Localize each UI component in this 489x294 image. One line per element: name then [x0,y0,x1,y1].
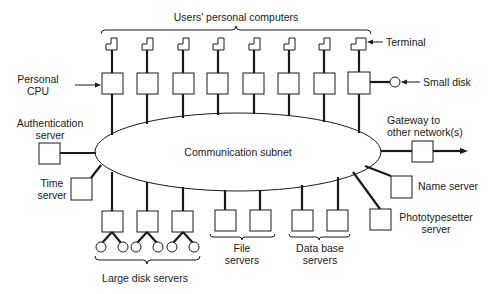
user-computer [348,38,370,133]
database-server [327,210,348,231]
terminal-icon [319,38,330,50]
file-servers-bracket [210,234,275,240]
database-servers-label-line2: servers [303,254,337,266]
file-servers-label-line2: servers [225,254,259,266]
disk-icon [167,242,177,252]
terminal-icon [213,38,224,50]
terminal-icon [106,38,117,50]
personal-cpu [348,72,370,94]
phototypesetter-server [370,209,391,230]
database-servers-bracket [289,234,350,240]
time-server [71,178,92,200]
database-servers-label-line1: Data base [296,242,344,254]
large-disk-server-box [172,211,193,232]
distributed-system-diagram: Users' personal computers Communication … [0,0,489,294]
gateway [412,141,433,162]
disk-icon [96,242,106,252]
name-server [391,176,412,198]
terminal-icon [249,38,260,50]
arrow-right-icon [460,148,468,154]
large-disk-server [96,172,128,252]
authentication-server [39,143,60,164]
user-computer [102,38,123,135]
terminal-label: Terminal [386,36,426,48]
small-disk-icon [390,77,400,87]
user-computer [278,38,299,116]
auth-server-label-line1: Authentication [17,117,84,129]
gateway-label-line2: other network(s) [387,126,463,138]
personal-cpu [314,73,335,94]
personal-cpu [102,73,123,94]
user-computer [173,38,194,118]
user-computer [137,38,158,124]
terminal-icon [284,38,295,50]
personal-cpu [243,73,264,94]
name-server-label: Name server [418,180,479,192]
file-server [250,210,271,231]
disk-icon [118,242,128,252]
file-servers-label-line1: File [234,242,251,254]
user-computer [243,38,264,114]
user-computer [207,38,228,115]
large-disk-server-box [137,211,158,232]
large-disk-bracket [95,256,200,264]
time-server-label-line2: server [37,189,67,201]
large-disk-server-box [102,211,123,232]
small-disk-label: Small disk [423,76,472,88]
terminal-icon [142,38,153,50]
file-server [215,210,236,231]
personal-cpu [173,73,194,94]
auth-server-label-line2: server [35,129,65,141]
large-disk-server [167,187,199,252]
users-personal-computers-label: Users' personal computers [174,11,299,23]
subnet-label: Communication subnet [184,146,291,158]
phototypesetter-label-line2: server [421,223,451,235]
terminal-icon [351,38,366,50]
terminal-icon [178,38,189,50]
file-servers [210,190,275,240]
personal-cpu [137,73,158,94]
disk-icon [189,242,199,252]
phototypesetter-label-line1: Phototypesetter [399,211,473,223]
large-disk-servers-label: Large disk servers [102,272,188,284]
large-disk-server [131,182,163,252]
personal-cpu-label-line2: CPU [27,85,49,97]
disk-icon [131,242,141,252]
gateway-label-line1: Gateway to [387,114,440,126]
personal-cpu [278,73,299,94]
user-computer [314,38,335,122]
personal-cpu-label-line1: Personal [17,73,58,85]
database-server [292,210,313,231]
time-server-label-line1: Time [41,177,64,189]
disk-icon [153,242,163,252]
personal-cpu [207,73,228,94]
users-bracket [101,26,371,34]
